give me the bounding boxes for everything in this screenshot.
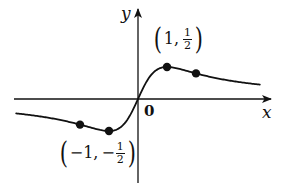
fraction-denominator: 2	[117, 154, 124, 166]
point-dot	[192, 69, 200, 77]
max-point-y-fraction: 1 2	[183, 27, 192, 51]
origin-label: 0	[144, 104, 154, 119]
close-paren: )	[195, 24, 203, 54]
open-paren: (	[60, 138, 68, 168]
fraction-numerator: 1	[183, 27, 192, 40]
fraction-denominator: 2	[184, 40, 191, 52]
min-point-label: ( −1, − 1 2 )	[58, 138, 138, 168]
min-point-x: −1,	[70, 145, 99, 161]
min-point-y-fraction: 1 2	[116, 141, 125, 165]
point-dot	[163, 63, 171, 71]
min-point-y-sign: −	[101, 145, 114, 161]
open-paren: (	[154, 24, 162, 54]
x-axis-label: x	[262, 104, 272, 121]
close-paren: )	[128, 138, 136, 168]
point-dot	[76, 120, 84, 128]
max-point-label: ( 1, 1 2 )	[152, 24, 205, 54]
fraction-numerator: 1	[116, 141, 125, 154]
y-axis-label: y	[121, 5, 131, 22]
max-point-x: 1,	[164, 31, 179, 47]
graph-canvas	[0, 0, 286, 188]
point-dot	[105, 127, 113, 135]
